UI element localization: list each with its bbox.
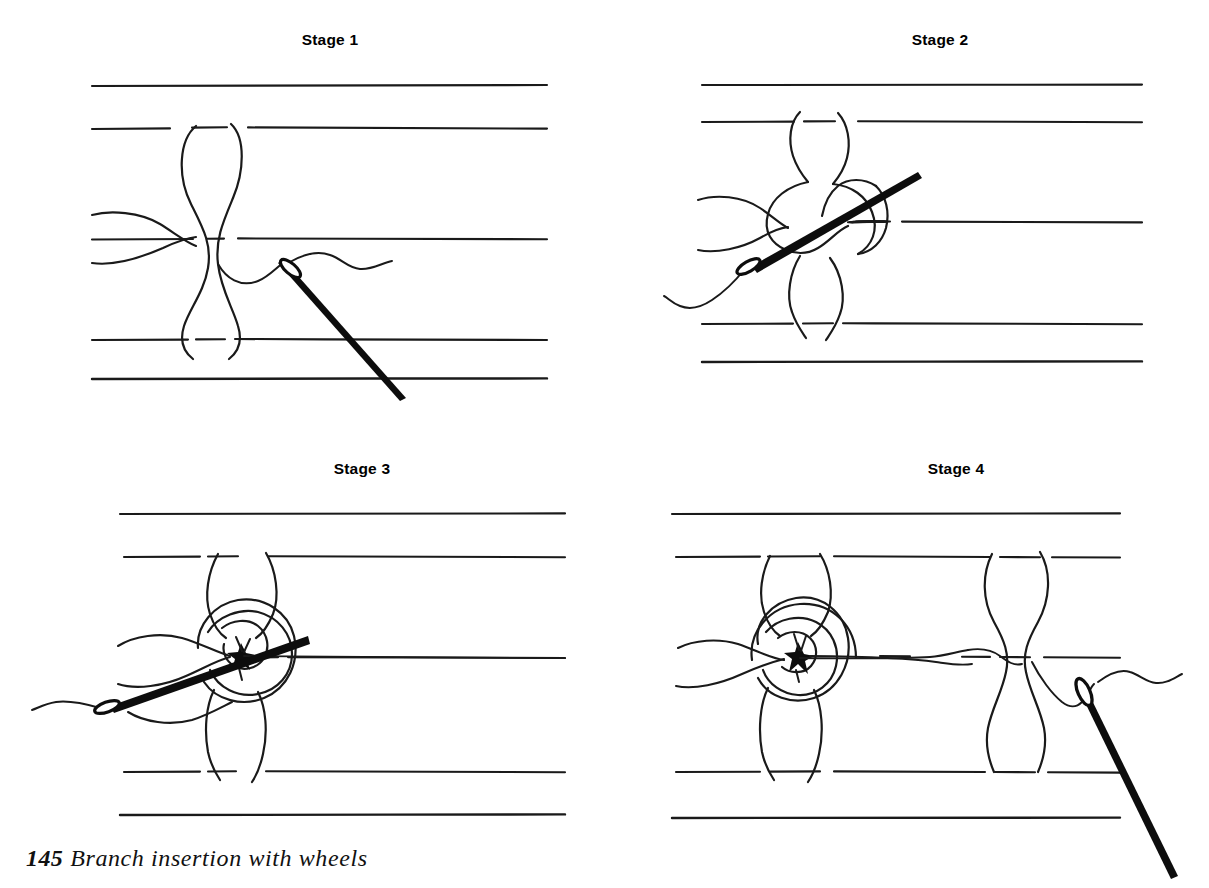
- stage-2-upper-loop: [790, 112, 848, 184]
- stage-3-fabric-lines: [120, 513, 565, 815]
- stage-4-wheel-spiral: [752, 597, 856, 700]
- stage-2-thread-loops: [767, 180, 888, 254]
- stage-4-needle-thread: [1032, 662, 1182, 707]
- stage-4-left-fabric-bar: [760, 554, 831, 782]
- stage-1-thread-tails-left: [92, 212, 196, 263]
- figure-root: Stage 1 Stage 2 Stage 3 Stage 4: [0, 0, 1209, 888]
- stitch-diagram-illustration: [0, 0, 1209, 888]
- stage-4-fabric-lines: [672, 513, 1120, 818]
- stage-2-lower-loop: [789, 256, 843, 340]
- stage-2-fabric-lines: [702, 85, 1142, 362]
- stage-4-needle: [1073, 676, 1178, 879]
- stage-3-needle: [93, 636, 310, 716]
- stage-3-trailing-thread: [32, 701, 100, 710]
- stage-1-panel: [92, 85, 547, 401]
- figure-caption: 145Branch insertion with wheels: [26, 845, 368, 872]
- stage-4-panel: [672, 513, 1182, 879]
- stage-2-needle-eye: [735, 256, 763, 278]
- stage-1-fabric-lines: [92, 85, 547, 379]
- figure-caption-text: Branch insertion with wheels: [70, 845, 367, 871]
- stage-2-trailing-thread: [664, 270, 744, 308]
- stage-4-needle-eye: [1073, 676, 1096, 707]
- stage-1-working-thread: [218, 253, 392, 283]
- stage-4-right-fabric-bar: [985, 552, 1048, 772]
- stage-3-panel: [32, 513, 565, 815]
- stage-1-thread-figure-eight: [182, 124, 242, 359]
- stage-2-needle: [735, 172, 922, 277]
- stage-3-needle-eye: [93, 698, 121, 716]
- figure-caption-number: 145: [26, 845, 63, 871]
- stage-2-panel: [664, 85, 1142, 362]
